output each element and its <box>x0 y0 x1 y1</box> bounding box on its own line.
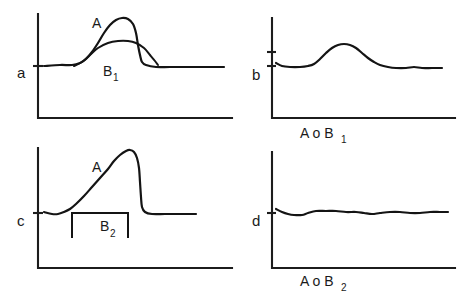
panel-a-letter: a <box>17 64 26 81</box>
panel-b-caption: A o B 1 <box>300 125 347 145</box>
panel-c-label-B2: B 2 <box>100 218 116 239</box>
panel-a-label-B1-base: B <box>103 63 112 79</box>
panel-c-letter: c <box>17 212 25 229</box>
panel-d-axes <box>272 152 455 268</box>
panel-d-caption: A o B 2 <box>300 273 347 293</box>
panel-d-curve-AoB2 <box>276 209 448 215</box>
panel-c-axes <box>38 148 232 268</box>
panel-b: b A o B 1 <box>252 18 455 145</box>
panel-b-letter: b <box>252 66 260 83</box>
panel-d: d A o B 2 <box>252 152 455 293</box>
panel-d-caption-sub: 2 <box>341 282 347 293</box>
four-panel-correlation-figure: a A B 1 b A o B 1 c A <box>0 0 476 299</box>
panel-d-letter: d <box>252 212 260 229</box>
panel-a-label-B1: B 1 <box>103 63 119 83</box>
panel-c-label-B2-sub: 2 <box>110 228 116 239</box>
panel-c-curve-A <box>44 150 196 214</box>
panel-a-label-A: A <box>92 15 102 31</box>
panel-a: a A B 1 <box>17 14 232 118</box>
panel-c: c A B 2 <box>17 148 232 268</box>
panel-b-curve-AoB1 <box>276 44 442 68</box>
panel-a-label-B1-sub: 1 <box>113 72 119 83</box>
panel-c-label-B2-base: B <box>100 218 109 234</box>
figure-container: a A B 1 b A o B 1 c A <box>0 0 476 299</box>
panel-c-label-A: A <box>92 159 102 175</box>
panel-b-caption-base: A o B <box>300 125 333 141</box>
panel-a-curve-B1 <box>74 41 158 66</box>
panel-d-caption-base: A o B <box>300 273 333 289</box>
panel-b-caption-sub: 1 <box>341 134 347 145</box>
